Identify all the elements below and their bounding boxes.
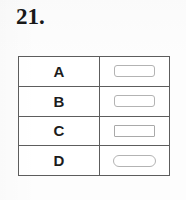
answer-box-d[interactable] [113, 155, 156, 167]
answer-cell-c[interactable] [100, 117, 169, 146]
answer-cell-a[interactable] [100, 57, 169, 86]
page-canvas: 21. A B C [0, 0, 186, 200]
answer-table: A B C D [18, 56, 170, 176]
answer-cell-d[interactable] [100, 146, 169, 175]
option-letter: A [54, 63, 65, 80]
option-label-d: D [19, 146, 100, 175]
answer-cell-b[interactable] [100, 87, 169, 116]
table-row[interactable]: B [19, 87, 169, 117]
question-number: 21. [16, 4, 45, 30]
table-row[interactable]: C [19, 117, 169, 147]
option-label-a: A [19, 57, 100, 86]
answer-box-a[interactable] [114, 65, 155, 77]
option-letter: C [54, 122, 65, 139]
table-row[interactable]: D [19, 146, 169, 175]
answer-box-c[interactable] [114, 125, 155, 137]
option-letter: D [54, 152, 65, 169]
table-row[interactable]: A [19, 57, 169, 87]
answer-box-b[interactable] [114, 95, 155, 107]
option-label-b: B [19, 87, 100, 116]
option-label-c: C [19, 117, 100, 146]
option-letter: B [54, 93, 65, 110]
